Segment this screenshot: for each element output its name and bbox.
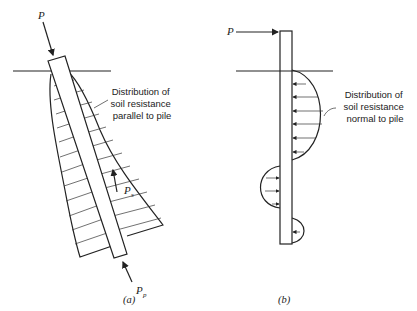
load-label-a: P <box>37 9 45 21</box>
figure-b: P Distribution of soil resi <box>226 25 406 306</box>
note-a: Distribution of soil resistance parallel… <box>111 86 174 121</box>
pile-diagram: P <box>0 0 417 311</box>
note-leader-a <box>94 100 108 108</box>
tip-resistance-arrow <box>123 262 132 282</box>
pressure-arrows-middle <box>265 178 279 204</box>
tip-resistance-sub: p <box>142 291 147 299</box>
pressure-arrows-upper <box>293 84 323 152</box>
pressure-bulb-lower <box>292 218 304 243</box>
load-arrow-a <box>43 22 53 55</box>
skin-friction-sub: s <box>131 191 134 199</box>
tip-resistance-label: P <box>135 284 143 296</box>
skin-friction-label: P <box>123 184 131 196</box>
pressure-bulb-middle <box>261 166 281 208</box>
note-leader-b <box>324 108 336 116</box>
note-b: Distribution of soil resistance normal t… <box>344 89 407 124</box>
pressure-bulb-upper <box>292 70 321 160</box>
load-label-b: P <box>226 25 234 37</box>
caption-a: (a) <box>123 294 136 306</box>
skin-friction-arrow <box>113 170 117 192</box>
caption-b: (b) <box>278 294 291 306</box>
figure-a: P <box>13 9 173 306</box>
pile-b <box>280 31 292 244</box>
